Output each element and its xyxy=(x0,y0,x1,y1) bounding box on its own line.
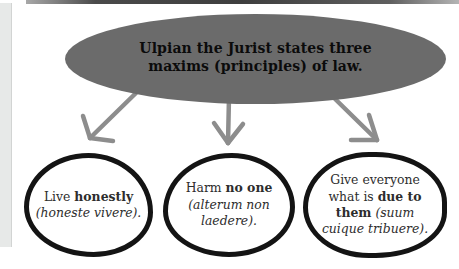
diagram-title-line-2: maxims (principles) of law. xyxy=(139,57,371,75)
diagram-title-line-1: Ulpian the Jurist states three xyxy=(139,39,371,57)
arrow-to-give-everyone-icon xyxy=(330,94,377,140)
node-harm-no-one: Harm no one (alterum non laedere). xyxy=(163,153,295,257)
arrow-to-harm-no-one-icon xyxy=(214,97,243,143)
root-node-ellipse: Ulpian the Jurist states three maxims (p… xyxy=(65,14,446,104)
arrow-to-live-honestly-icon xyxy=(83,93,136,141)
node-give-everyone-their-due-label: Give everyone what is due to them (suum … xyxy=(316,172,434,238)
page: Ulpian the Jurist states three maxims (p… xyxy=(0,0,459,269)
diagram-title: Ulpian the Jurist states three maxims (p… xyxy=(139,39,371,79)
node-give-everyone-their-due: Give everyone what is due to them (suum … xyxy=(303,152,447,258)
node-harm-no-one-label: Harm no one (alterum non laedere). xyxy=(181,180,277,229)
node-live-honestly-label: Live honestly (honeste vivere). xyxy=(31,189,147,222)
